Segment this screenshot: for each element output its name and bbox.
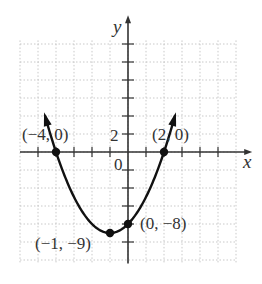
parabola-graph: y x 0 2 (−4, 0) (2, 0) (0, −8) (−1, −9) — [0, 0, 262, 284]
y-tick-label-2: 2 — [110, 126, 119, 145]
point-label-2-0: (2, 0) — [152, 125, 189, 144]
x-axis-label: x — [242, 151, 252, 172]
point-label-0-neg8: (0, −8) — [140, 214, 186, 233]
origin-label: 0 — [114, 155, 123, 174]
y-axis-label: y — [111, 16, 122, 37]
point-label-neg1-neg9: (−1, −9) — [35, 234, 91, 253]
point-label-neg4-0: (−4, 0) — [22, 125, 68, 144]
